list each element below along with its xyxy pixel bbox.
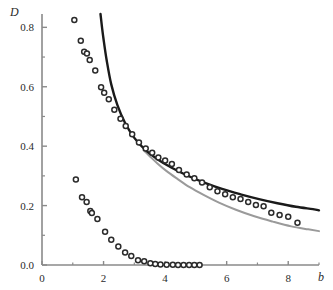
data-point xyxy=(215,189,220,194)
y-tick-label: 0.2 xyxy=(20,200,34,212)
data-point xyxy=(163,158,168,163)
x-tick-label: 4 xyxy=(162,272,168,284)
y-axis-label: D xyxy=(9,5,19,19)
data-point xyxy=(164,262,169,267)
data-point xyxy=(129,254,134,259)
data-point xyxy=(72,17,77,22)
data-point xyxy=(156,155,161,160)
data-point xyxy=(89,211,94,216)
data-point xyxy=(103,229,108,234)
data-point xyxy=(269,210,274,215)
black-curve xyxy=(100,14,319,210)
x-tick-label: 6 xyxy=(224,272,230,284)
data-point xyxy=(150,150,155,155)
data-point xyxy=(192,176,197,181)
data-point xyxy=(143,146,148,151)
y-axis-tick-labels: 0.00.20.40.60.8 xyxy=(20,21,34,271)
data-point xyxy=(84,51,89,56)
data-point xyxy=(106,97,111,102)
y-tick-label: 0.4 xyxy=(20,140,34,152)
x-axis-tick-labels: 02468 xyxy=(39,272,291,284)
chart-figure: 0.00.20.40.60.8 02468 D b xyxy=(0,0,333,290)
data-point xyxy=(93,68,98,73)
data-point xyxy=(170,262,175,267)
x-tick-label: 2 xyxy=(101,272,107,284)
data-point xyxy=(246,200,251,205)
data-point xyxy=(176,167,181,172)
y-tick-label: 0.8 xyxy=(20,21,34,33)
data-point xyxy=(109,237,114,242)
y-tick-label: 0.0 xyxy=(20,259,34,271)
data-point xyxy=(136,258,141,263)
data-point xyxy=(95,216,100,221)
data-point xyxy=(238,197,243,202)
data-point xyxy=(197,263,202,268)
data-point xyxy=(142,259,147,264)
data-point xyxy=(102,90,107,95)
data-point xyxy=(73,177,78,182)
data-point xyxy=(253,202,258,207)
data-point xyxy=(184,172,189,177)
data-point xyxy=(230,195,235,200)
y-tick-label: 0.6 xyxy=(20,81,34,93)
data-point xyxy=(116,244,121,249)
data-point xyxy=(169,161,174,166)
data-point xyxy=(181,263,186,268)
data-point xyxy=(200,180,205,185)
data-point xyxy=(118,116,123,121)
data-point xyxy=(112,107,117,112)
data-point xyxy=(207,185,212,190)
data-point xyxy=(192,263,197,268)
data-point xyxy=(123,250,128,255)
data-point xyxy=(87,58,92,63)
data-point xyxy=(223,192,228,197)
data-point xyxy=(277,213,282,218)
data-point xyxy=(286,214,291,219)
data-point xyxy=(187,263,192,268)
data-point xyxy=(136,140,141,145)
data-point xyxy=(130,132,135,137)
data-point xyxy=(84,200,89,205)
data-point xyxy=(78,38,83,43)
data-point xyxy=(158,262,163,267)
data-point xyxy=(148,261,153,266)
data-point xyxy=(99,85,104,90)
data-point xyxy=(176,263,181,268)
scatter-plot-svg: 0.00.20.40.60.8 02468 D b xyxy=(0,0,333,290)
x-tick-label: 8 xyxy=(285,272,291,284)
data-point xyxy=(261,204,266,209)
x-tick-label: 0 xyxy=(39,272,45,284)
lower-scatter-series xyxy=(73,177,202,268)
x-axis-label: b xyxy=(318,270,324,284)
data-point xyxy=(80,195,85,200)
data-point xyxy=(153,262,158,267)
data-point xyxy=(123,123,128,128)
data-point xyxy=(295,220,300,225)
